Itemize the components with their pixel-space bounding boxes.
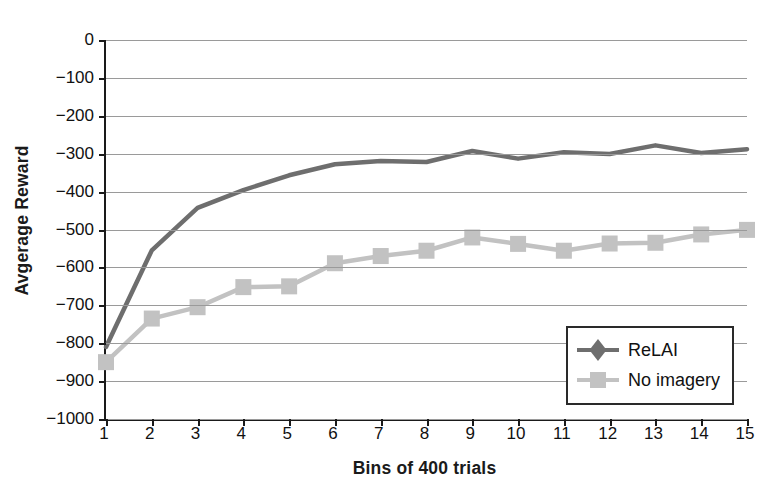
x-tick-label: 13	[644, 424, 663, 444]
y-tick-label: −700	[56, 295, 94, 315]
y-tick-mark	[99, 267, 106, 269]
gridline	[106, 116, 747, 117]
y-tick-mark	[99, 230, 106, 232]
x-tick-label: 15	[736, 424, 755, 444]
x-tick-label: 4	[237, 424, 246, 444]
x-tick-label: 2	[145, 424, 154, 444]
legend-item-label: No imagery	[628, 370, 720, 391]
x-tick-label: 7	[374, 424, 383, 444]
y-tick-mark	[99, 78, 106, 80]
y-axis-tick-labels: 0−100−200−300−400−500−600−700−800−900−10…	[36, 40, 100, 419]
y-tick-label: −400	[56, 182, 94, 202]
legend-item-relai: ReLAI	[576, 335, 720, 365]
gridline	[106, 305, 747, 306]
y-axis-title-text: Avgerage Reward	[12, 145, 33, 295]
x-tick-label: 12	[598, 424, 617, 444]
y-tick-mark	[99, 419, 106, 421]
y-tick-mark	[99, 116, 106, 118]
x-tick-label: 3	[191, 424, 200, 444]
y-tick-label: −100	[56, 68, 94, 88]
data-point-square	[144, 311, 160, 327]
y-tick-mark	[99, 343, 106, 345]
gridline	[106, 40, 747, 41]
y-tick-label: 0	[85, 30, 94, 50]
chart-figure: Avgerage Reward 0−100−200−300−400−500−60…	[0, 0, 767, 503]
data-point-square	[647, 235, 663, 251]
legend-item-label: ReLAI	[628, 340, 678, 361]
gridline	[106, 78, 747, 79]
data-point-square	[98, 354, 114, 370]
y-tick-mark	[99, 154, 106, 156]
y-tick-label: −600	[56, 257, 94, 277]
y-tick-label: −300	[56, 144, 94, 164]
y-tick-label: −1000	[46, 409, 94, 429]
legend-marker-diamond-icon	[576, 339, 620, 361]
x-tick-label: 14	[690, 424, 709, 444]
x-axis-tick-labels: 123456789101112131415	[104, 424, 745, 450]
gridline	[106, 192, 747, 193]
data-point-square	[235, 279, 251, 295]
data-point-square	[281, 278, 297, 294]
gridline	[106, 230, 747, 231]
x-axis-title: Bins of 400 trials	[104, 458, 745, 479]
x-tick-label: 8	[420, 424, 429, 444]
x-tick-label: 6	[328, 424, 337, 444]
data-point-square	[327, 255, 343, 271]
gridline	[106, 154, 747, 155]
y-tick-mark	[99, 192, 106, 194]
chart-legend: ReLAI No imagery	[566, 326, 734, 405]
x-tick-label: 10	[507, 424, 526, 444]
legend-item-no-imagery: No imagery	[576, 365, 720, 395]
legend-marker-square-icon	[576, 369, 620, 391]
data-point-square	[373, 248, 389, 264]
data-point-square	[190, 299, 206, 315]
x-tick-label: 5	[282, 424, 291, 444]
y-tick-mark	[99, 40, 106, 42]
x-tick-label: 9	[466, 424, 475, 444]
y-tick-label: −200	[56, 106, 94, 126]
data-point-square	[556, 243, 572, 259]
x-tick-label: 1	[99, 424, 108, 444]
y-tick-label: −900	[56, 371, 94, 391]
y-tick-label: −800	[56, 333, 94, 353]
y-tick-mark	[99, 305, 106, 307]
data-point-square	[464, 229, 480, 245]
gridline	[106, 267, 747, 268]
data-point-square	[419, 243, 435, 259]
y-tick-mark	[99, 381, 106, 383]
data-point-square	[510, 236, 526, 252]
y-tick-label: −500	[56, 220, 94, 240]
x-tick-label: 11	[553, 424, 571, 444]
data-point-square	[602, 236, 618, 252]
